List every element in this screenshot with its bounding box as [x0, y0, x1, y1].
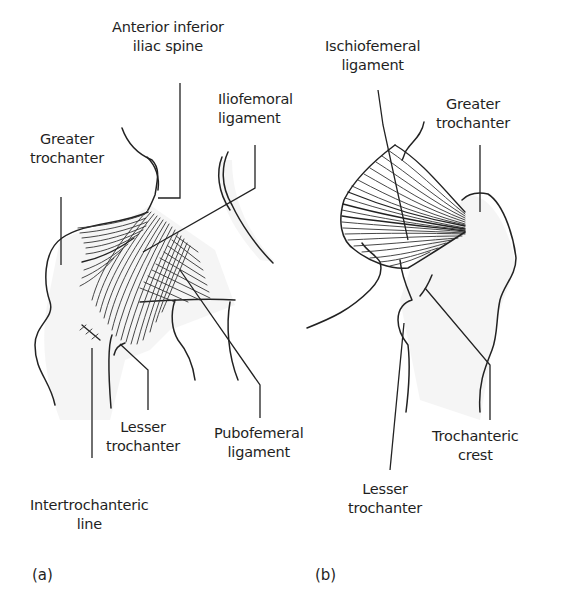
- leader-lesser-trochanter-b: [390, 323, 404, 470]
- panel-tag-a: (a): [32, 566, 53, 584]
- label-line: ligament: [214, 443, 304, 462]
- label-anterior-inferior-iliac-spine: Anterior inferior iliac spine: [112, 18, 224, 56]
- label-greater-trochanter-a: Greater trochanter: [30, 130, 104, 168]
- label-ischiofemoral-ligament: Ischiofemeral ligament: [325, 37, 420, 75]
- label-line: Pubofemeral: [214, 424, 304, 443]
- hip-ligaments-figure: Anterior inferior iliac spine Greater tr…: [0, 0, 561, 610]
- label-intertrochanteric-line: Intertrochanteric line: [30, 496, 149, 534]
- label-line: Trochanteric: [432, 427, 519, 446]
- label-line: line: [30, 515, 149, 534]
- label-line: Ischiofemeral: [325, 37, 420, 56]
- label-greater-trochanter-b: Greater trochanter: [436, 95, 510, 133]
- label-pubofemoral-ligament: Pubofemeral ligament: [214, 424, 304, 462]
- label-line: Anterior inferior: [112, 18, 224, 37]
- label-line: trochanter: [436, 114, 510, 133]
- label-line: Greater: [436, 95, 510, 114]
- label-line: Intertrochanteric: [30, 496, 149, 515]
- label-lesser-trochanter-a: Lesser trochanter: [106, 418, 180, 456]
- label-trochanteric-crest: Trochanteric crest: [432, 427, 519, 465]
- label-line: iliac spine: [112, 37, 224, 56]
- label-line: trochanter: [106, 437, 180, 456]
- label-line: trochanter: [30, 149, 104, 168]
- label-line: Lesser: [348, 480, 422, 499]
- panel-tag-b: (b): [315, 566, 336, 584]
- label-line: Lesser: [106, 418, 180, 437]
- label-line: Iliofemoral: [218, 90, 293, 109]
- label-line: ligament: [325, 56, 420, 75]
- label-iliofemoral-ligament: Iliofemoral ligament: [218, 90, 293, 128]
- label-line: ligament: [218, 109, 293, 128]
- panel-b-drawing: [307, 90, 516, 470]
- label-line: crest: [432, 446, 519, 465]
- label-lesser-trochanter-b: Lesser trochanter: [348, 480, 422, 518]
- label-line: trochanter: [348, 499, 422, 518]
- label-line: Greater: [30, 130, 104, 149]
- leader-aiis: [158, 83, 180, 198]
